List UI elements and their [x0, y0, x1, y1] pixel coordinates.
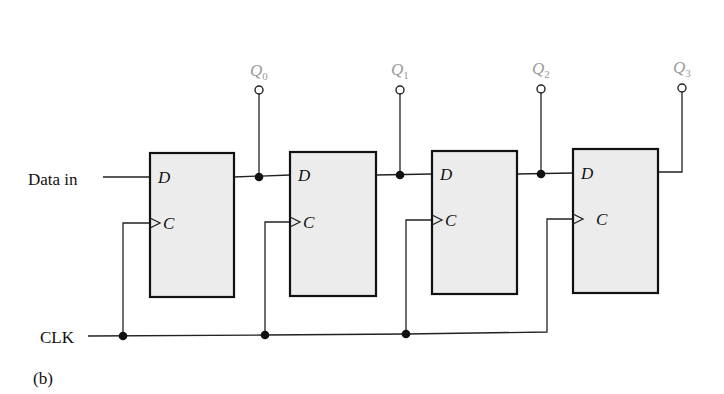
d-input-label: D	[580, 164, 594, 183]
junction-dot	[119, 332, 128, 341]
data-in-label: Data in	[28, 170, 78, 189]
clk-label: CLK	[40, 328, 75, 347]
shift-register-diagram: Data in CLK (b) Q0	[0, 0, 724, 394]
d-input-label: D	[297, 166, 311, 185]
flip-flop-3: D C	[573, 149, 658, 293]
output-terminal-q2	[537, 85, 545, 93]
output-terminal-q0	[255, 86, 263, 94]
junction-dot	[255, 173, 264, 182]
flip-flop-2: D C	[432, 151, 517, 294]
output-label-q3: Q3	[673, 58, 691, 79]
output-label-q2: Q2	[532, 59, 550, 80]
junction-dot	[537, 170, 546, 179]
junction-dot	[402, 330, 411, 339]
c-input-label: C	[445, 211, 457, 230]
c-input-label: C	[303, 213, 315, 232]
output-terminal-q3	[678, 84, 686, 92]
figure-caption: (b)	[33, 369, 53, 388]
flip-flop-1: D C	[290, 152, 376, 296]
c-input-label: C	[163, 214, 175, 233]
d-input-label: D	[157, 168, 171, 187]
output-label-q0: Q0	[250, 61, 268, 82]
d-input-label: D	[439, 165, 453, 184]
output-terminal-q1	[396, 86, 404, 94]
junction-dot	[396, 171, 405, 180]
junction-dot	[261, 331, 270, 340]
output-label-q1: Q1	[391, 60, 409, 81]
c-input-label: C	[596, 210, 608, 229]
flip-flop-0: D C	[150, 153, 234, 297]
